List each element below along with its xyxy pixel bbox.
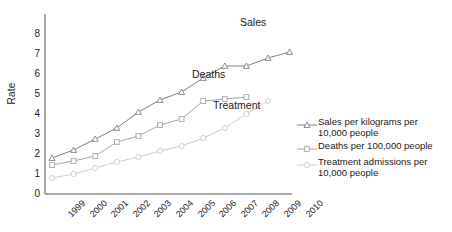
data-point-marker bbox=[93, 165, 98, 170]
series-label-sales: Sales bbox=[240, 16, 266, 28]
data-point-marker bbox=[201, 99, 206, 104]
data-point-marker bbox=[157, 148, 162, 153]
data-point-marker bbox=[179, 117, 184, 122]
data-point-marker bbox=[222, 125, 227, 130]
data-point-marker bbox=[179, 89, 185, 94]
legend-item[interactable]: Sales per kilograms per 10,000 people bbox=[296, 116, 452, 138]
data-point-marker bbox=[114, 159, 119, 164]
series-label-deaths: Deaths bbox=[192, 68, 225, 80]
data-point-marker bbox=[244, 111, 249, 116]
data-point-marker bbox=[93, 154, 98, 159]
legend-item-label: Sales per kilograms per 10,000 people bbox=[318, 116, 418, 138]
data-point-marker bbox=[50, 163, 55, 168]
data-point-marker bbox=[71, 171, 76, 176]
legend-item-label: Treatment admissions per 10,000 people bbox=[318, 156, 427, 178]
data-point-marker bbox=[71, 159, 76, 164]
legend-item[interactable]: Deaths per 100,000 people bbox=[296, 140, 452, 154]
data-point-marker bbox=[71, 147, 77, 152]
data-point-marker bbox=[201, 135, 206, 140]
data-point-marker bbox=[179, 143, 184, 148]
data-point-marker bbox=[265, 98, 270, 103]
chart-legend: Sales per kilograms per 10,000 peopleDea… bbox=[296, 116, 452, 180]
series-line bbox=[52, 101, 268, 178]
legend-item[interactable]: Treatment admissions per 10,000 people bbox=[296, 156, 452, 178]
data-point-marker bbox=[114, 140, 119, 145]
chart-figure: Rate 876543210 1999200020012002200320042… bbox=[0, 0, 452, 232]
data-point-marker bbox=[136, 154, 141, 159]
circle-marker-icon bbox=[296, 157, 318, 170]
legend-item-label: Deaths per 100,000 people bbox=[318, 140, 433, 151]
triangle-marker-icon bbox=[296, 117, 318, 130]
data-point-marker bbox=[135, 109, 141, 114]
data-point-marker bbox=[114, 125, 120, 130]
series-label-treatment: Treatment bbox=[213, 99, 260, 111]
data-point-marker bbox=[287, 49, 293, 54]
data-point-marker bbox=[92, 136, 98, 141]
data-point-marker bbox=[136, 134, 141, 139]
data-point-marker bbox=[49, 175, 54, 180]
series-layer bbox=[49, 49, 293, 181]
data-point-marker bbox=[158, 123, 163, 128]
square-marker-icon bbox=[296, 141, 318, 154]
